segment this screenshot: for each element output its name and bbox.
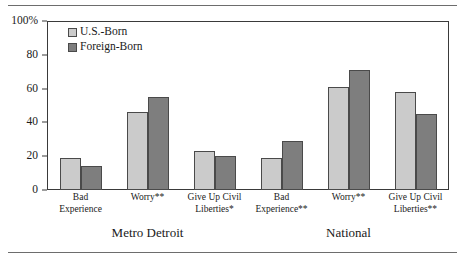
category-axis-labels: BadExperienceWorry**Give Up CivilLiberti…	[47, 192, 449, 220]
category-label-line: Worry**	[315, 192, 382, 204]
category-label-line: Give Up Civil	[181, 192, 248, 204]
y-axis-tick-label: 0	[32, 184, 38, 196]
category-label-line: Experience	[47, 204, 114, 216]
legend-item-us-born: U.S.-Born	[68, 25, 188, 39]
group-title: National	[248, 225, 449, 240]
category-label-line: Experience**	[248, 204, 315, 216]
legend-label-us-born: U.S.-Born	[80, 26, 127, 38]
bar	[395, 92, 416, 190]
bar	[215, 156, 236, 190]
bar	[261, 158, 282, 190]
category-label-line: Worry**	[114, 192, 181, 204]
category-label: Worry**	[315, 192, 382, 204]
category-label-line: Liberties**	[382, 204, 449, 216]
category-label: Worry**	[114, 192, 181, 204]
bottom-horizontal-rule	[8, 252, 457, 253]
category-label: BadExperience	[47, 192, 114, 215]
category-label-line: Liberties*	[181, 204, 248, 216]
group-titles: Metro DetroitNational	[47, 225, 449, 245]
bar	[81, 166, 102, 190]
figure-container: 020406080100% BadExperienceWorry**Give U…	[0, 0, 465, 262]
bar	[416, 114, 437, 190]
category-label: Give Up CivilLiberties*	[181, 192, 248, 215]
y-axis-tick-label: 20	[27, 150, 39, 162]
y-axis-tick-label: 100%	[11, 15, 38, 27]
legend-swatch-foreign-born-icon	[68, 43, 77, 52]
y-axis-tick-label: 60	[27, 83, 39, 95]
bar	[328, 87, 349, 190]
category-label: BadExperience**	[248, 192, 315, 215]
legend-item-foreign-born: Foreign-Born	[68, 40, 188, 54]
bar	[282, 141, 303, 190]
bar	[127, 112, 148, 190]
bar	[349, 70, 370, 190]
category-label: Give Up CivilLiberties**	[382, 192, 449, 215]
category-label-line: Bad	[248, 192, 315, 204]
y-axis-tick-label: 40	[27, 117, 39, 129]
y-axis: 020406080100%	[0, 21, 47, 190]
bar	[194, 151, 215, 190]
category-label-line: Bad	[47, 192, 114, 204]
group-title: Metro Detroit	[47, 225, 248, 240]
bar	[60, 158, 81, 190]
legend-swatch-us-born-icon	[68, 28, 77, 37]
bar	[148, 97, 169, 190]
category-label-line: Give Up Civil	[382, 192, 449, 204]
top-horizontal-rule	[8, 5, 457, 6]
y-axis-tick-label: 80	[27, 49, 39, 61]
legend-label-foreign-born: Foreign-Born	[80, 41, 143, 53]
chart-legend: U.S.-Born Foreign-Born	[68, 25, 188, 55]
